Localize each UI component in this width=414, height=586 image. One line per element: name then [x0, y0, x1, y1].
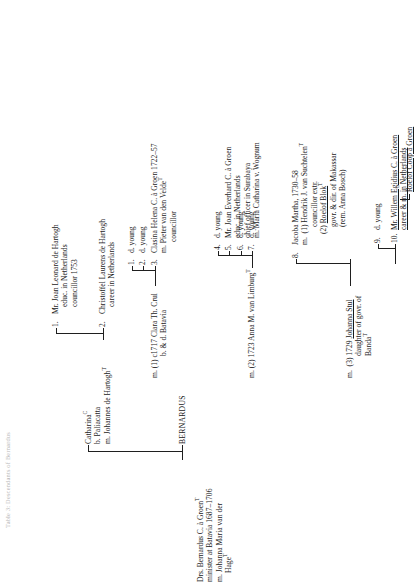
catharina-branch-2 [103, 328, 104, 334]
child-line: Mr. Joan Leonard de Hartogh [51, 192, 60, 314]
m1-branch-2 [143, 266, 144, 271]
child-line: Mr. Joan Everhard C. à Groen [224, 68, 233, 238]
toponym-marker: T [245, 269, 251, 272]
child-number: 7. [247, 244, 256, 250]
c10-descendant-spine [400, 199, 409, 200]
child-number: 3. [150, 259, 159, 265]
c10-descendant-name: Roelof Coop à Groen [405, 127, 414, 192]
m3-subbracket-stem [395, 249, 396, 264]
m1-branch-3 [155, 266, 156, 271]
child-line: educ. in Netherlands [60, 192, 69, 314]
child-number: 1. [51, 321, 60, 327]
m2-branch-6 [241, 251, 242, 256]
progenitor-line-2: minister at Batavia 1687–1706 [205, 460, 214, 582]
toponym-marker: T [362, 333, 368, 336]
m1-branch-1 [132, 266, 133, 271]
progenitor-line-3: m. Johanna Maria van der [215, 460, 224, 582]
child-line: (2) Roelof BlokT [319, 65, 328, 245]
child-number: 10. [390, 234, 399, 244]
catharina-name: CatharinaC [84, 340, 93, 444]
progenitor-line-1: Drs. Bernardus C. à GroenT [196, 460, 205, 582]
toponym-marker: T [318, 183, 324, 186]
catharina-block: CatharinaC b. Paliacatta m. Johannes de … [84, 340, 112, 444]
child-line: councillor extr. [310, 65, 319, 245]
marriage-2-spine [218, 255, 253, 256]
child-line: councillor 1753 [70, 192, 79, 314]
c10-descendant-branch [409, 194, 410, 200]
bernardus-name: BERNARDUS [178, 395, 187, 444]
child-line: m. Pieter van den VeldeT [159, 103, 168, 253]
groen-child-3: Clasina Helena C. à Groen 1722–57 m. Pie… [150, 103, 178, 253]
marriage-2-stem [252, 256, 253, 268]
m2-branch-4 [218, 251, 219, 256]
child-number: 1. [127, 259, 136, 265]
m3-branch-910-link [350, 259, 351, 264]
g1-bracket-spine [88, 451, 183, 452]
catharina-line-1: b. Paliacatta [93, 340, 102, 444]
marriage-subline: b. & d. Batavia [159, 282, 168, 378]
g1-branch-catharina [88, 445, 89, 452]
child-line: d. young [373, 203, 382, 230]
catharina-branch-1 [56, 328, 57, 334]
marriage-3-prefix: m. (3) 1729 [345, 339, 354, 378]
marriage-label: m. (1) c1717 Clara Th. Crul [150, 282, 159, 378]
toponym-marker: T [158, 178, 164, 181]
child-line: councillor [169, 103, 178, 253]
c8-m2-husband: Roelof Blok [319, 186, 328, 223]
progenitor-line-4: HageT [224, 460, 233, 582]
child-line: Jacoba Martha, 1730–58 [291, 65, 300, 245]
marriage-subline: BandaT [364, 258, 373, 378]
c8-m1-prefix: m. (1) Hendrik J. van Suchtelen [300, 146, 309, 245]
hartogh-child-1: Mr. Joan Leonard de Hartogh educ. in Net… [51, 192, 79, 314]
christian-marker: C [82, 411, 88, 415]
catharina-line-2: m. Johannes de HartoghT [103, 340, 112, 444]
c8-m2-prefix: (2) [319, 223, 328, 234]
child-line: d. young [213, 211, 222, 238]
catharina-bracket-spine [56, 333, 104, 334]
marriage-1-stem [155, 271, 156, 286]
m3-branch-8 [296, 259, 297, 264]
child-line: Christoffel Laurens de Hartogh [98, 188, 107, 314]
child-line: d. young [127, 226, 136, 253]
g1-stem [182, 452, 183, 460]
marriage-3-spine [296, 263, 351, 264]
child-line: d. young [236, 211, 245, 238]
m2-branch-7 [252, 251, 253, 256]
toponym-marker: T [223, 554, 229, 557]
child-line: career in Netherlands [107, 188, 116, 314]
child-number: 8. [291, 252, 300, 258]
toponym-marker: T [299, 143, 305, 146]
child-line: Mr. Willem Egidius C. à Groen [390, 50, 399, 230]
child-number: 2. [98, 321, 107, 327]
child-line: m. (1) Hendrik J. van SuchtelenT [300, 65, 309, 245]
child-line: govr. & dir. of Makassar [329, 65, 338, 245]
g1-branch-bernardus [182, 445, 183, 452]
child-number: 9. [373, 237, 382, 243]
child-line: d. young [138, 226, 147, 253]
child-number: 2. [138, 259, 147, 265]
toponym-marker: T [194, 498, 200, 501]
marriage-subline: daughter of govr. of [354, 258, 363, 378]
m3-subbracket-spine [378, 248, 395, 249]
marriage-3-wife: Johanna Stul [345, 300, 354, 339]
progenitor-block: Drs. Bernardus C. à GroenT minister at B… [196, 460, 234, 582]
groen-child-8: Jacoba Martha, 1730–58 m. (1) Hendrik J.… [291, 65, 347, 245]
m2-branch-5 [229, 251, 230, 256]
hartogh-child-2: Christoffel Laurens de Hartogh career in… [98, 188, 117, 314]
child-line: (rem. Anna Bosch) [338, 65, 347, 245]
catharina-stem [103, 334, 104, 340]
marriage-3-stem [350, 264, 351, 286]
child-number: 5. [224, 244, 233, 250]
child-number: 6. [236, 244, 245, 250]
marriage-1-block: m. (1) c1717 Clara Th. Crul b. & d. Bata… [150, 282, 169, 378]
child-number: 4. [213, 244, 222, 250]
marriage-1-spine [132, 270, 156, 271]
m3-branch-9 [378, 244, 379, 249]
child-line: d. young [247, 211, 256, 238]
toponym-marker: T [101, 367, 107, 370]
page-title: Table 3: Descendants of Bernardus [4, 432, 11, 528]
